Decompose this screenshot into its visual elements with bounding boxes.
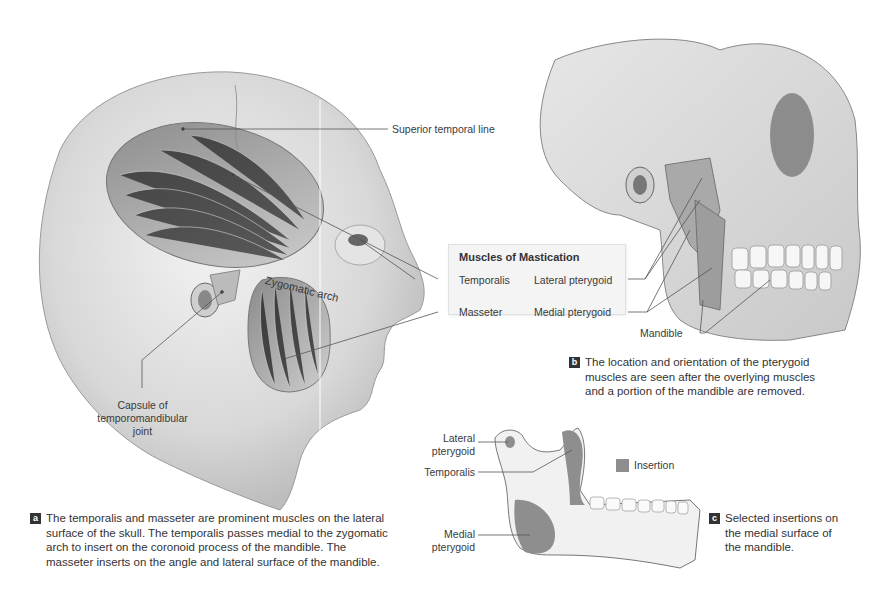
label-lateral-pterygoid-c: Lateral pterygoid — [420, 432, 475, 458]
caption-panel-c: cSelected insertions on the medial surfa… — [709, 511, 838, 555]
legend-title: Muscles of Mastication — [459, 251, 579, 263]
label-superior-temporal-line: Superior temporal line — [392, 123, 495, 136]
panel-c-badge: c — [709, 513, 720, 524]
label-insertion: Insertion — [634, 459, 674, 472]
head-lateral-view — [39, 72, 424, 510]
caption-panel-a: aThe temporalis and masseter are promine… — [30, 511, 388, 569]
label-capsule-tmj: Capsule of temporomandibular joint — [95, 399, 190, 438]
muscles-of-mastication-legend: Muscles of Mastication Temporalis Latera… — [448, 244, 626, 315]
label-temporalis-c: Temporalis — [420, 466, 475, 479]
insertion-swatch — [616, 459, 629, 472]
legend-item-lateral-pterygoid: Lateral pterygoid — [534, 274, 612, 286]
panel-a-badge: a — [30, 513, 41, 524]
mandible-medial-view — [495, 428, 700, 568]
label-medial-pterygoid-c: Medial pterygoid — [420, 528, 475, 554]
legend-item-masseter: Masseter — [459, 306, 502, 318]
legend-item-temporalis: Temporalis — [459, 274, 510, 286]
panel-b-badge: b — [569, 357, 580, 368]
anatomy-illustration — [0, 0, 879, 595]
legend-item-medial-pterygoid: Medial pterygoid — [534, 306, 611, 318]
caption-panel-b: bThe location and orientation of the pte… — [569, 355, 815, 399]
label-mandible: Mandible — [640, 327, 683, 340]
